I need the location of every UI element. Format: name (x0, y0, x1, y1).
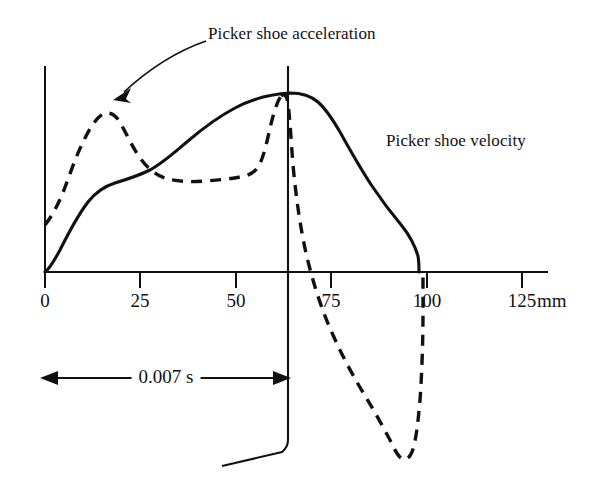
x-axis-ticks (45, 272, 522, 288)
x-tick-label-125: 125 (508, 290, 537, 312)
chart-canvas (0, 0, 603, 489)
x-axis-unit-label: mm (537, 290, 567, 312)
x-tick-label-75: 75 (322, 290, 341, 312)
time-span-label: 0.007 s (132, 366, 201, 388)
x-tick-label-100: 100 (413, 290, 442, 312)
picker-shoe-motion-figure: Picker shoe acceleration Picker shoe vel… (0, 0, 603, 489)
acceleration-curve (45, 95, 423, 460)
x-tick-label-50: 50 (227, 290, 246, 312)
curved-arrow-icon (113, 41, 206, 103)
velocity-curve (45, 93, 419, 272)
acceleration-series-label: Picker shoe acceleration (208, 24, 376, 44)
velocity-series-label: Picker shoe velocity (386, 131, 526, 151)
x-tick-label-0: 0 (40, 290, 50, 312)
stroke-end-marker-line (222, 66, 288, 466)
x-tick-label-25: 25 (131, 290, 150, 312)
